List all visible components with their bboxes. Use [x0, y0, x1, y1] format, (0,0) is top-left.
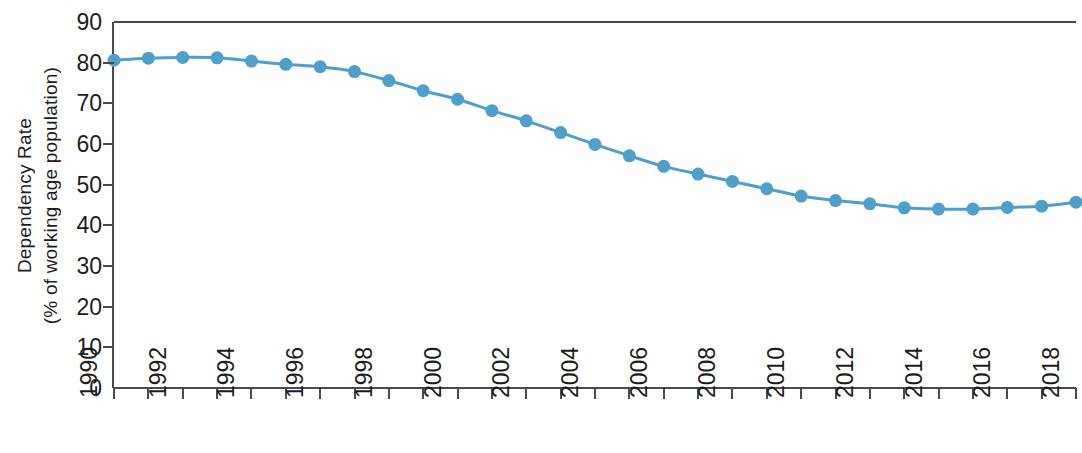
data-point-marker — [108, 54, 121, 67]
x-tick-label: 2006 — [627, 347, 650, 398]
y-tick-label: 20 — [76, 295, 102, 318]
y-tick-label: 60 — [76, 133, 102, 156]
x-tick-label: 1996 — [284, 347, 307, 398]
x-tick-label: 2004 — [559, 347, 582, 398]
data-point-marker — [211, 51, 224, 64]
data-point-marker — [1035, 200, 1048, 213]
y-axis-title-line-2: (% of working age population) — [40, 67, 62, 324]
plot-area — [112, 22, 1076, 388]
data-point-marker — [692, 168, 705, 181]
y-tick-mark — [103, 224, 114, 226]
data-point-marker — [245, 55, 258, 68]
y-tick-label: 90 — [76, 11, 102, 34]
y-tick-mark — [103, 102, 114, 104]
data-point-marker — [485, 104, 498, 117]
data-point-marker — [829, 194, 842, 207]
data-point-marker — [589, 138, 602, 151]
data-series-layer — [114, 22, 1076, 388]
data-point-marker — [898, 201, 911, 214]
data-point-marker — [176, 51, 189, 64]
y-axis-title-line-1: Dependency Rate — [14, 118, 36, 273]
data-point-marker — [623, 149, 636, 162]
y-tick-label: 70 — [76, 92, 102, 115]
data-point-marker — [520, 114, 533, 127]
data-point-marker — [382, 74, 395, 87]
x-axis-tick-labels: 1990199219941996199820002002200420062008… — [112, 392, 1082, 453]
y-tick-mark — [103, 184, 114, 186]
data-point-marker — [863, 197, 876, 210]
x-tick-label: 2016 — [971, 347, 994, 398]
y-tick-mark — [103, 62, 114, 64]
x-tick-label: 2008 — [696, 347, 719, 398]
x-tick-label: 1990 — [78, 347, 101, 398]
series-line — [114, 57, 1076, 209]
x-tick-label: 2014 — [902, 347, 925, 398]
data-point-marker — [932, 203, 945, 216]
data-point-marker — [1001, 201, 1014, 214]
x-tick-label: 2012 — [833, 347, 856, 398]
y-tick-mark — [103, 306, 114, 308]
data-point-marker — [726, 175, 739, 188]
data-point-marker — [657, 160, 670, 173]
data-point-marker — [142, 52, 155, 65]
y-tick-mark — [103, 265, 114, 267]
x-tick-label: 2002 — [490, 347, 513, 398]
y-tick-mark — [103, 346, 114, 348]
y-tick-label: 50 — [76, 173, 102, 196]
x-tick-label: 2010 — [765, 347, 788, 398]
data-point-marker — [760, 182, 773, 195]
y-tick-mark — [103, 143, 114, 145]
y-tick-label: 40 — [76, 214, 102, 237]
y-tick-label: 30 — [76, 255, 102, 278]
data-point-marker — [795, 190, 808, 203]
dependency-rate-line-chart: Dependency Rate (% of working age popula… — [0, 0, 1082, 453]
x-tick-label: 1992 — [146, 347, 169, 398]
data-point-marker — [314, 60, 327, 73]
data-point-marker — [417, 84, 430, 97]
data-point-marker — [554, 126, 567, 139]
x-tick-label: 1994 — [215, 347, 238, 398]
x-tick-label: 2000 — [421, 347, 444, 398]
data-point-marker — [348, 65, 361, 78]
data-point-marker — [966, 203, 979, 216]
y-axis-tick-labels: 0102030405060708090 — [62, 0, 108, 392]
x-tick-label: 2018 — [1040, 347, 1063, 398]
data-point-marker — [1070, 196, 1082, 209]
data-point-marker — [451, 93, 464, 106]
data-point-marker — [279, 58, 292, 71]
x-tick-label: 1998 — [352, 347, 375, 398]
y-tick-label: 80 — [76, 51, 102, 74]
